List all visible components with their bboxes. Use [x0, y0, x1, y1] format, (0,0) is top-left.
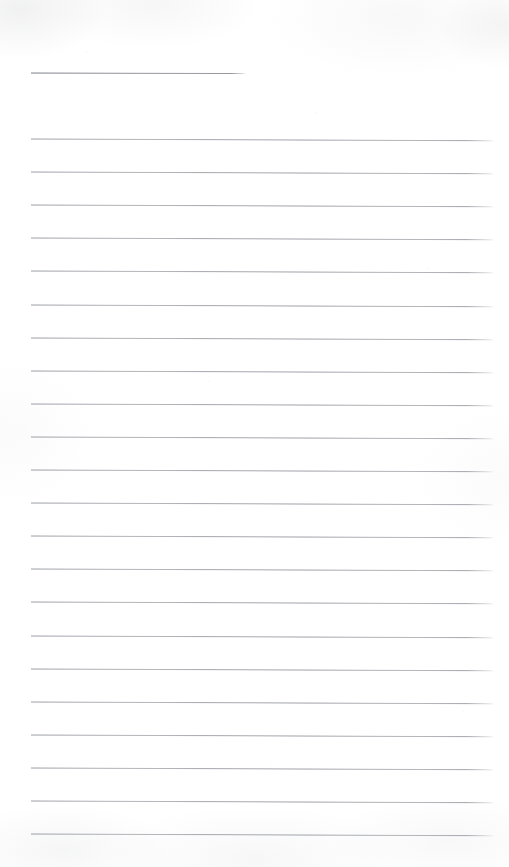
document-page [0, 0, 509, 867]
ruled-line-22 [31, 833, 493, 837]
page-title-text [31, 46, 245, 68]
title-underline-rule [31, 72, 245, 75]
page-body-text [31, 120, 493, 820]
